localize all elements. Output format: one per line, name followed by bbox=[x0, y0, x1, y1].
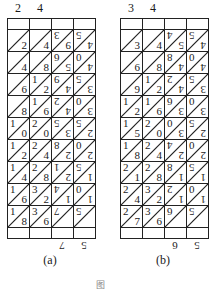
units-digit: 2 bbox=[44, 84, 50, 95]
units-digit bbox=[189, 206, 206, 227]
units-digit: 4 bbox=[135, 194, 141, 205]
units-digit: 2 bbox=[135, 106, 141, 117]
units-digit: 4 bbox=[76, 30, 93, 51]
tens-digit: 2 bbox=[123, 206, 129, 217]
top-label: 2 bbox=[7, 1, 29, 16]
tens-digit: 1 bbox=[10, 140, 16, 151]
lattice-cell: 24 bbox=[52, 96, 74, 118]
lattice-cell: 12 bbox=[121, 96, 143, 118]
lattice-cell: 32 bbox=[30, 184, 52, 206]
lattice-cell: 81 bbox=[165, 162, 187, 184]
units-digit: 6 bbox=[22, 194, 28, 205]
lattice-cell: 04 bbox=[187, 52, 209, 74]
units-digit: 0 bbox=[157, 128, 163, 139]
lattice-cell: 42 bbox=[165, 140, 187, 162]
units-digit: 8 bbox=[157, 172, 163, 183]
lattice-cell: 8 bbox=[8, 96, 30, 118]
lattice-cell: 5 bbox=[74, 206, 96, 228]
empty-cell bbox=[8, 228, 30, 239]
lattice-cell: 8 bbox=[30, 52, 52, 74]
units-digit: 2 bbox=[22, 150, 28, 161]
lattice-cell: 02 bbox=[187, 140, 209, 162]
units-digit bbox=[167, 206, 184, 227]
tens-digit: 2 bbox=[145, 140, 151, 151]
tens-digit: 3 bbox=[145, 206, 151, 217]
lattice-cell: 53 bbox=[74, 74, 96, 96]
units-digit: 4 bbox=[167, 74, 184, 95]
empty-cell bbox=[121, 19, 143, 30]
lattice-cell: 02 bbox=[74, 140, 96, 162]
lattice-cell: 4 bbox=[143, 30, 165, 52]
lattice-cell: 52 bbox=[187, 118, 209, 140]
empty-cell bbox=[165, 19, 187, 30]
units-digit: 6 bbox=[135, 62, 141, 73]
lattice-cell: 41 bbox=[52, 184, 74, 206]
lattice-cell: 53 bbox=[52, 118, 74, 140]
units-digit: 3 bbox=[76, 96, 93, 117]
units-digit: 8 bbox=[44, 62, 50, 73]
lattice-cell: 52 bbox=[74, 118, 96, 140]
tens-digit: 2 bbox=[32, 140, 38, 151]
lattice-cell: 7 bbox=[52, 206, 74, 228]
lattice-cell: 14 bbox=[8, 162, 30, 184]
caption-b: (b) bbox=[143, 253, 183, 268]
units-digit: 2 bbox=[157, 194, 163, 205]
units-digit: 2 bbox=[157, 84, 163, 95]
lattice-cell: 9 bbox=[121, 74, 143, 96]
lattice-cell: 24 bbox=[121, 184, 143, 206]
lattice-cell: 24 bbox=[165, 74, 187, 96]
lattice-cell: 6 bbox=[8, 74, 30, 96]
lattice-cell: 12 bbox=[143, 74, 165, 96]
top-label: 3 bbox=[120, 1, 142, 16]
units-digit: 4 bbox=[157, 150, 163, 161]
lattice-cell: 24 bbox=[30, 140, 52, 162]
empty-cell bbox=[121, 228, 143, 239]
units-digit: 4 bbox=[54, 96, 71, 117]
units-digit: 2 bbox=[189, 140, 206, 161]
units-digit: 4 bbox=[44, 40, 50, 51]
tens-digit: 1 bbox=[123, 140, 129, 151]
empty-cell bbox=[187, 228, 209, 239]
tens-digit: 1 bbox=[10, 162, 16, 173]
top-label: 4 bbox=[142, 1, 164, 16]
empty-cell bbox=[143, 228, 165, 239]
tens-digit: 1 bbox=[145, 74, 151, 85]
units-digit: 6 bbox=[157, 106, 163, 117]
units-digit: 1 bbox=[189, 162, 206, 183]
lattice-cell: 18 bbox=[8, 206, 30, 228]
units-digit: 3 bbox=[135, 40, 141, 51]
lattice-cell: 51 bbox=[74, 162, 96, 184]
tens-digit: 3 bbox=[32, 206, 38, 217]
units-digit: 4 bbox=[22, 172, 28, 183]
lattice-cell: 36 bbox=[30, 206, 52, 228]
tens-digit: 1 bbox=[10, 206, 16, 217]
units-digit: 9 bbox=[54, 30, 71, 51]
lattice-cell: 32 bbox=[143, 184, 165, 206]
empty-cell bbox=[52, 228, 74, 239]
units-digit: 3 bbox=[167, 118, 184, 139]
empty-cell bbox=[187, 19, 209, 30]
lattice-cell: 21 bbox=[165, 184, 187, 206]
tens-digit: 2 bbox=[123, 162, 129, 173]
units-digit: 3 bbox=[76, 74, 93, 95]
lattice-cell: 54 bbox=[187, 30, 209, 52]
lattice-cell: 12 bbox=[8, 140, 30, 162]
empty-cell bbox=[30, 228, 52, 239]
lattice-cell: 16 bbox=[8, 184, 30, 206]
lattice-cell: 16 bbox=[30, 96, 52, 118]
lattice-cell: 65 bbox=[52, 52, 74, 74]
lattice-cell: 28 bbox=[143, 162, 165, 184]
lattice-cell: 4 bbox=[8, 52, 30, 74]
lattice-cell: 16 bbox=[143, 96, 165, 118]
lattice-grid-a: 2424395448650461294538162403102053521224… bbox=[7, 18, 96, 239]
units-digit: 9 bbox=[135, 84, 141, 95]
units-digit: 6 bbox=[44, 216, 50, 227]
lattice-cell: 03 bbox=[74, 96, 96, 118]
lattice-cell: 03 bbox=[187, 96, 209, 118]
tens-digit: 1 bbox=[10, 118, 16, 129]
units-digit: 2 bbox=[167, 140, 184, 161]
bottom-label: 5 bbox=[73, 240, 95, 252]
units-digit: 3 bbox=[54, 118, 71, 139]
lattice-cell: 6 bbox=[165, 206, 187, 228]
tens-digit: 2 bbox=[32, 162, 38, 173]
